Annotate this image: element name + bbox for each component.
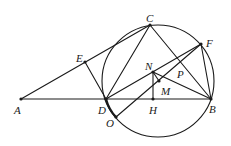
label-E: E: [75, 52, 83, 64]
point-F: [199, 42, 202, 45]
point-E: [83, 60, 86, 63]
point-D: [104, 97, 107, 100]
label-D: D: [97, 104, 106, 116]
label-B: B: [209, 103, 216, 115]
label-C: C: [146, 12, 154, 24]
point-A: [19, 97, 22, 100]
label-F: F: [205, 37, 213, 49]
label-O: O: [106, 117, 114, 129]
label-N: N: [144, 60, 153, 72]
point-O: [114, 115, 117, 118]
label-A: A: [13, 104, 21, 116]
label-H: H: [148, 104, 158, 116]
segment-CD: [106, 25, 150, 99]
label-M: M: [160, 85, 171, 97]
point-B: [209, 97, 212, 100]
segment-ED: [85, 62, 106, 99]
point-H: [151, 97, 154, 100]
label-P: P: [176, 68, 184, 80]
point-M: [157, 79, 160, 82]
arc-DO: [106, 99, 116, 117]
geometry-diagram: A D H B C E F N M P O: [0, 0, 231, 146]
